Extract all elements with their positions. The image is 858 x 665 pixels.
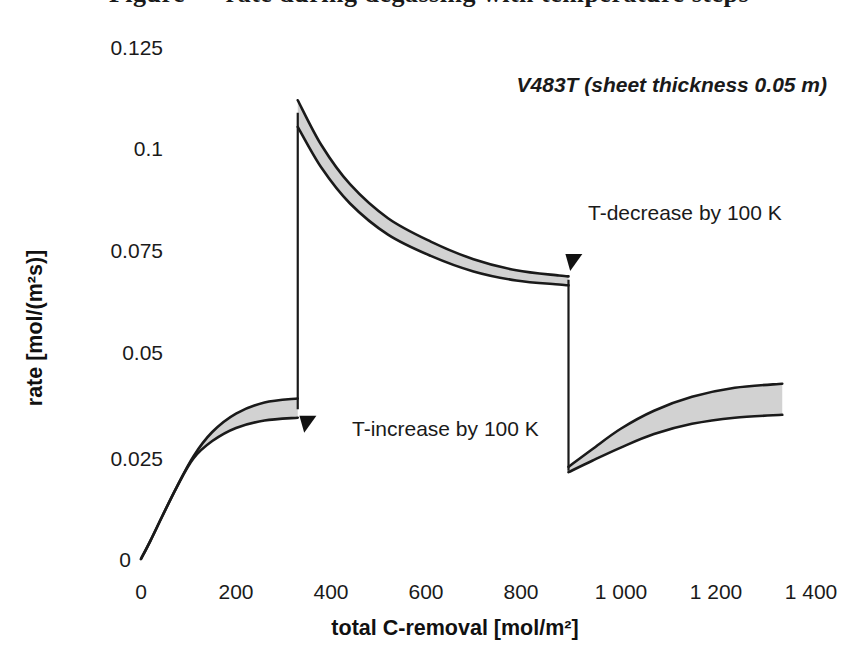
t-increase-annotation: T-increase by 100 K — [352, 417, 539, 440]
x-tick-label-2: 400 — [313, 580, 348, 603]
x-tick-label-6: 1 200 — [690, 580, 743, 603]
y-tick-label-1: 0.025 — [110, 447, 163, 470]
t-decrease-annotation: T-decrease by 100 K — [588, 201, 782, 224]
x-axis-tick-labels: 0 200 400 600 800 1 000 1 200 1 400 — [135, 580, 837, 603]
x-tick-label-4: 800 — [503, 580, 538, 603]
y-tick-label-2: 0.05 — [122, 341, 163, 364]
x-tick-label-7: 1 400 — [785, 580, 838, 603]
x-tick-label-3: 600 — [408, 580, 443, 603]
data-curve-lower — [141, 127, 782, 559]
y-tick-label-0: 0 — [119, 548, 131, 571]
arrow-t-decrease-icon — [565, 254, 582, 271]
x-tick-label-0: 0 — [135, 580, 147, 603]
y-axis-tick-labels: 0.125 0.1 0.075 0.05 0.025 0 — [110, 36, 163, 571]
data-curve-upper — [141, 100, 782, 559]
y-axis-title-group: rate [mol/(m²s)] — [23, 250, 47, 406]
data-band-segment-1 — [141, 398, 298, 559]
y-tick-label-4: 0.1 — [134, 137, 163, 160]
y-tick-label-5: 0.125 — [110, 36, 163, 59]
series-note-annotation: V483T (sheet thickness 0.05 m) — [517, 73, 827, 96]
x-tick-label-1: 200 — [218, 580, 253, 603]
chart-canvas: 0.125 0.1 0.075 0.05 0.025 0 rate [mol/(… — [0, 0, 858, 665]
chart-page: Figure — rate during degassing with temp… — [0, 0, 858, 665]
x-tick-label-5: 1 000 — [595, 580, 648, 603]
y-tick-label-3: 0.075 — [110, 239, 163, 262]
data-curves-group — [141, 100, 782, 559]
arrow-t-increase-icon — [299, 416, 316, 433]
y-axis-title: rate [mol/(m²s)] — [23, 250, 47, 406]
x-axis-title: total C-removal [mol/m²] — [331, 616, 578, 640]
data-band-group — [141, 100, 782, 559]
